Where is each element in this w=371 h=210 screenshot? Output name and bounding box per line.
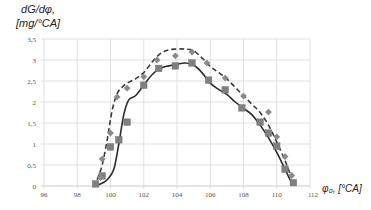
y-tick-label: 0,5: [27, 162, 36, 170]
square-marker-icon: [290, 179, 297, 186]
square-marker-icon: [273, 143, 280, 150]
chart-plot: 00,511,522,533,5 96981001021041061081101…: [0, 0, 371, 210]
diamond-marker-icon: [172, 52, 179, 59]
data-series: [92, 49, 296, 188]
square-marker-icon: [239, 105, 246, 112]
square-marker-icon: [124, 119, 131, 126]
square-marker-icon: [107, 144, 114, 151]
x-tick-label: 112: [308, 191, 319, 199]
x-tick-label: 100: [105, 191, 116, 199]
square-marker-icon: [189, 60, 196, 67]
y-tick-label: 1: [33, 141, 37, 149]
square-marker-icon: [222, 87, 229, 94]
square-marker-icon: [172, 63, 179, 70]
diamond-marker-icon: [154, 57, 161, 64]
x-tick-label: 98: [74, 191, 82, 199]
y-tick-label: 3: [33, 57, 37, 65]
x-tick-labels: 9698100102104106108110112: [41, 191, 319, 199]
y-tick-label: 2: [33, 99, 37, 107]
square-marker-icon: [257, 119, 264, 126]
y-tick-label: 2,5: [27, 78, 36, 86]
x-tick-label: 110: [272, 191, 283, 199]
x-tick-label: 106: [205, 191, 216, 199]
diamond-marker-icon: [265, 109, 272, 116]
y-tick-label: 0: [33, 183, 37, 191]
diamond-marker-icon: [240, 93, 247, 100]
square-marker-icon: [155, 65, 162, 72]
x-tick-label: 104: [172, 191, 183, 199]
square-marker-icon: [92, 181, 99, 188]
square-marker-icon: [116, 137, 123, 144]
y-tick-label: 1,5: [27, 120, 36, 128]
y-tick-label: 3,5: [27, 36, 36, 44]
square-marker-icon: [205, 77, 212, 84]
x-tick-label: 96: [41, 191, 49, 199]
x-axis-label: φ₀, [°CA]: [322, 183, 362, 194]
square-marker-icon: [282, 166, 289, 173]
y-tick-labels: 00,511,522,533,5: [27, 36, 36, 191]
square-marker-icon: [265, 130, 272, 137]
x-tick-label: 108: [238, 191, 249, 199]
square-marker-icon: [140, 82, 147, 89]
dashed-model-line: [97, 49, 292, 180]
diamond-marker-icon: [273, 133, 280, 140]
x-tick-label: 102: [139, 191, 150, 199]
